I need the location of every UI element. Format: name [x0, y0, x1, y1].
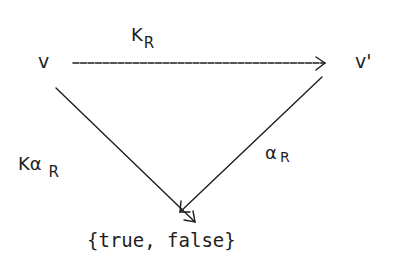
node-true-false-set: {true, false} [87, 231, 236, 250]
node-v: v [38, 52, 49, 71]
label-top-kr: KR [131, 26, 154, 44]
arrow-top-kr [73, 57, 325, 70]
diagram-canvas: v v' KR Kα R αR {true, false} [0, 0, 397, 274]
label-right-main: α [265, 142, 277, 163]
node-v-prime-text: v' [355, 50, 371, 72]
node-result-text: {true, false} [87, 229, 236, 251]
label-right-sub: R [280, 149, 290, 165]
node-v-text: v [38, 50, 49, 72]
arrow-right-alpha [180, 77, 322, 212]
arrow-left-kalpha [56, 88, 195, 222]
label-left-kalpha-r: Kα R [18, 155, 59, 173]
label-right-alpha-r: αR [265, 144, 290, 162]
node-v-prime: v' [355, 52, 371, 71]
label-left-main: Kα [18, 153, 42, 174]
label-top-sub: R [144, 34, 154, 52]
label-left-sub: R [48, 163, 58, 181]
label-top-main: K [131, 24, 143, 45]
